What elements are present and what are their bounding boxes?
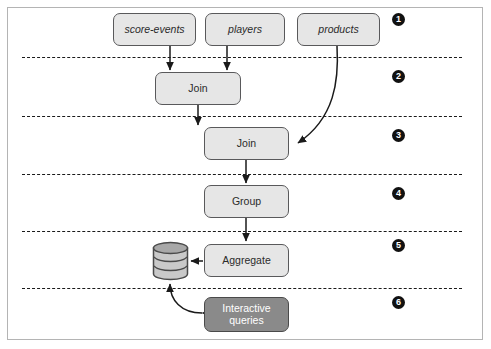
operator-join-1-label: Join bbox=[188, 83, 207, 94]
stage-divider-1 bbox=[22, 57, 462, 58]
database-cylinder-icon[interactable] bbox=[152, 241, 189, 281]
stage-divider-3 bbox=[22, 174, 462, 175]
topology-diagram: 1 2 3 4 5 6 score-events players product… bbox=[0, 0, 491, 349]
stage-badge-6: 6 bbox=[392, 296, 405, 309]
operator-join-1[interactable]: Join bbox=[155, 72, 241, 105]
stage-badge-1: 1 bbox=[392, 13, 405, 26]
stage-badge-2: 2 bbox=[392, 70, 405, 83]
operator-group[interactable]: Group bbox=[204, 185, 289, 218]
interactive-queries-label-line1: Interactive bbox=[222, 303, 270, 314]
interactive-queries-box[interactable]: Interactive queries bbox=[204, 297, 289, 332]
edge-products-to-join2 bbox=[298, 46, 337, 143]
topic-players[interactable]: players bbox=[205, 13, 285, 46]
topic-products-label: products bbox=[318, 24, 358, 35]
topic-players-label: players bbox=[228, 24, 262, 35]
stage-badge-5: 5 bbox=[392, 239, 405, 252]
stage-badge-3: 3 bbox=[392, 129, 405, 142]
operator-group-label: Group bbox=[232, 196, 261, 207]
stage-divider-5 bbox=[22, 288, 462, 289]
topic-score-events[interactable]: score-events bbox=[113, 13, 196, 46]
stage-divider-2 bbox=[22, 116, 462, 117]
stage-badge-4: 4 bbox=[392, 187, 405, 200]
operator-join-2-label: Join bbox=[237, 138, 256, 149]
topic-products[interactable]: products bbox=[297, 13, 380, 46]
operator-aggregate[interactable]: Aggregate bbox=[204, 244, 289, 277]
stage-divider-4 bbox=[22, 231, 462, 232]
interactive-queries-label-line2: queries bbox=[229, 315, 263, 326]
operator-aggregate-label: Aggregate bbox=[222, 255, 270, 266]
operator-join-2[interactable]: Join bbox=[204, 127, 289, 160]
topic-score-events-label: score-events bbox=[124, 24, 184, 35]
